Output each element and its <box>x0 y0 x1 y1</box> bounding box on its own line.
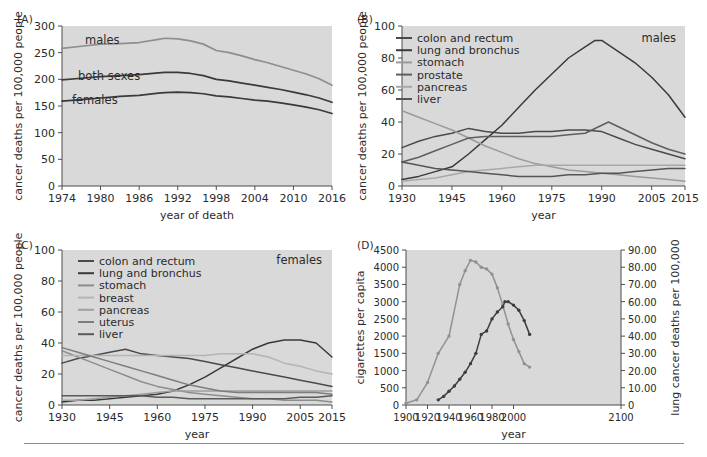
data-point <box>523 319 526 322</box>
data-point <box>490 272 493 275</box>
footer-divider <box>24 443 684 444</box>
data-point <box>506 300 509 303</box>
x-tick-label: 1990 <box>588 192 616 205</box>
y-tick-label-right: 40.00 <box>628 331 657 342</box>
legend-label: pancreas <box>417 81 468 94</box>
legend-label: lung and bronchus <box>99 267 202 280</box>
x-axis-title: year <box>185 428 210 441</box>
data-point <box>528 333 531 336</box>
x-tick-label: 2004 <box>241 192 269 205</box>
y-tick-label: 60 <box>381 84 395 97</box>
y-tick-label-right: 60.00 <box>628 297 657 308</box>
y-axis-title: cancer deaths per 100,000 people <box>12 232 25 422</box>
data-point <box>474 260 477 263</box>
data-point <box>426 381 429 384</box>
annotation-females: females <box>72 93 118 107</box>
panel-c-plot: 0204060801001930194519601975199020052015… <box>0 228 354 443</box>
y-tick-label-right: 0 <box>628 400 634 411</box>
y-axis-title-left: cigarettes per capita <box>354 270 367 384</box>
x-tick-label: 1930 <box>48 411 76 424</box>
annotation-males: males <box>85 33 120 47</box>
x-axis-title: year <box>531 209 556 222</box>
y-axis-title: cancer deaths per 100,000 people <box>356 11 369 201</box>
data-point <box>437 352 440 355</box>
legend-label: stomach <box>417 56 464 69</box>
x-tick-label: 1930 <box>388 192 416 205</box>
y-tick-label: 250 <box>34 47 55 60</box>
panel-b: (B) 020406080100193019451960197519902005… <box>354 0 707 228</box>
data-point <box>442 395 445 398</box>
y-tick-label: 40 <box>381 116 395 129</box>
data-point <box>480 266 483 269</box>
y-tick-label: 50 <box>41 153 55 166</box>
y-tick-label-left: 3000 <box>374 297 399 308</box>
data-point <box>480 333 483 336</box>
y-tick-label-left: 2500 <box>374 314 399 325</box>
data-point <box>501 305 504 308</box>
panel-a-plot: 0501001502002503001974198019861992199820… <box>0 0 354 228</box>
data-point <box>528 365 531 368</box>
x-tick-label: 1975 <box>538 192 566 205</box>
data-point <box>437 398 440 401</box>
x-tick-label: 1998 <box>202 192 230 205</box>
data-point <box>453 384 456 387</box>
x-tick-label: 1945 <box>438 192 466 205</box>
x-tick-label: 1986 <box>125 192 153 205</box>
y-tick-label: 300 <box>34 20 55 33</box>
y-tick-label-left: 4000 <box>374 262 399 273</box>
data-point <box>490 317 493 320</box>
y-tick-label: 100 <box>34 127 55 140</box>
y-axis-title-right: lung cancer deaths per 100,000 <box>669 239 682 415</box>
x-tick-label: 1990 <box>239 411 267 424</box>
data-point <box>517 309 520 312</box>
data-point <box>512 338 515 341</box>
y-tick-label: 100 <box>374 20 395 33</box>
panel-c: (C) 020406080100193019451960197519902005… <box>0 228 354 457</box>
legend-label: liver <box>417 93 441 106</box>
x-tick-label: 2015 <box>671 192 699 205</box>
legend-label: prostate <box>417 69 463 82</box>
y-tick-label-right: 50.00 <box>628 314 657 325</box>
data-point <box>506 322 509 325</box>
y-tick-label-right: 90.00 <box>628 245 657 256</box>
data-point <box>523 362 526 365</box>
panel-b-label: (B) <box>357 13 373 25</box>
data-point <box>485 267 488 270</box>
legend-label: stomach <box>99 279 146 292</box>
data-point <box>404 402 407 405</box>
data-point <box>469 362 472 365</box>
y-tick-label-left: 2000 <box>374 331 399 342</box>
x-tick-label: 1992 <box>164 192 192 205</box>
figure-root: (A) 050100150200250300197419801986199219… <box>0 0 707 457</box>
y-tick-label-right: 20.00 <box>628 366 657 377</box>
x-tick-label: 1974 <box>48 192 76 205</box>
x-tick-label: 2005 <box>638 192 666 205</box>
data-point <box>512 303 515 306</box>
data-point <box>463 269 466 272</box>
legend-label: uterus <box>99 316 135 329</box>
x-tick-label: 1945 <box>96 411 124 424</box>
data-point <box>474 352 477 355</box>
panel-c-corner-label: females <box>276 253 322 267</box>
panel-b-corner-label: males <box>641 31 676 45</box>
x-tick-label: 1960 <box>143 411 171 424</box>
y-tick-label: 80 <box>381 52 395 65</box>
y-tick-label: 20 <box>381 148 395 161</box>
y-axis-title: cancer deaths per 100,000 people <box>12 11 25 201</box>
data-point <box>463 371 466 374</box>
x-axis-title: year <box>501 428 526 441</box>
data-point <box>447 334 450 337</box>
y-tick-label: 20 <box>41 368 55 381</box>
y-tick-label: 150 <box>34 100 55 113</box>
y-tick-label-right: 80.00 <box>628 262 657 273</box>
legend-label: pancreas <box>99 304 150 317</box>
x-tick-label: 1975 <box>191 411 219 424</box>
y-tick-label-left: 4500 <box>374 245 399 256</box>
y-tick-label-left: 1500 <box>374 348 399 359</box>
legend-label: lung and bronchus <box>417 44 520 57</box>
y-tick-label: 100 <box>34 244 55 257</box>
y-tick-label: 80 <box>41 275 55 288</box>
data-point <box>458 377 461 380</box>
y-tick-label-left: 1000 <box>374 366 399 377</box>
y-tick-label: 40 <box>41 337 55 350</box>
